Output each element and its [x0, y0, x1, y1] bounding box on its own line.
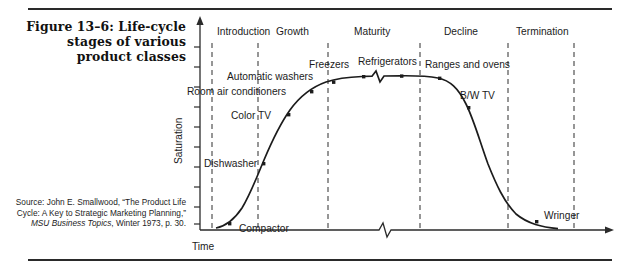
- chart-canvas: [186, 14, 626, 258]
- product-label-room-air-conditioners: Room air conditioners: [187, 86, 286, 97]
- data-point-compactor: [228, 222, 231, 225]
- stage-label-introduction: Introduction: [217, 26, 270, 37]
- figure-page: Figure 13–6: Life-cycle stages of variou…: [0, 0, 634, 270]
- life-cycle-chart: Introduction Growth Maturity Decline Ter…: [186, 14, 626, 258]
- product-label-ranges-and-ovens: Ranges and ovens: [425, 59, 510, 70]
- x-axis-title: Time: [192, 241, 214, 252]
- product-label-automatic-washers: Automatic washers: [227, 71, 313, 82]
- product-label-bw-tv: B/W TV: [460, 90, 495, 101]
- figure-title: Figure 13–6: Life-cycle stages of variou…: [14, 19, 186, 65]
- data-point-refrigerators: [400, 74, 403, 77]
- data-point-wringer: [535, 220, 538, 223]
- y-axis-title: Saturation: [173, 118, 184, 164]
- stage-label-growth: Growth: [276, 26, 309, 37]
- data-point-freezers: [362, 75, 365, 78]
- source-citation: Source: John E. Smallwood, “The Product …: [10, 197, 186, 229]
- data-point-room-air-conditioners: [310, 90, 313, 93]
- source-citation-prefix: Source: John E. Smallwood, “The Product …: [16, 197, 186, 218]
- source-citation-journal: MSU Business Topics: [31, 218, 111, 228]
- data-point-bw-tv: [467, 106, 470, 109]
- stage-label-maturity: Maturity: [354, 26, 390, 37]
- data-point-automatic-washers: [332, 81, 335, 84]
- product-label-dishwasher: Dishwasher: [204, 158, 257, 169]
- product-label-compactor: Compactor: [239, 223, 289, 234]
- product-label-color-tv: Color TV: [231, 110, 271, 121]
- y-axis-ticks: [194, 47, 200, 224]
- top-divider-rule: [28, 8, 612, 10]
- source-citation-suffix: , Winter 1973, p. 30.: [111, 218, 186, 228]
- data-point-ranges-and-ovens: [438, 77, 441, 80]
- product-label-wringer: Wringer: [544, 210, 579, 221]
- stage-label-termination: Termination: [516, 26, 569, 37]
- product-label-freezers: Freezers: [309, 59, 349, 70]
- data-point-dishwasher: [262, 162, 265, 165]
- bottom-divider-rule: [28, 259, 612, 261]
- product-label-refrigerators: Refrigerators: [358, 56, 417, 67]
- y-axis: [196, 16, 203, 230]
- data-point-color-tv: [287, 113, 290, 116]
- stage-label-decline: Decline: [444, 26, 478, 37]
